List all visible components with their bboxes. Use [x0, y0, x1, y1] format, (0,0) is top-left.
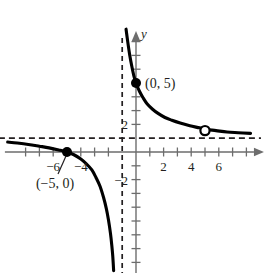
- curve-left-branch: [8, 142, 114, 271]
- x-axis-arrowhead: [254, 148, 264, 156]
- x-tick-label: 2: [160, 159, 167, 174]
- axis-lines-group: [5, 31, 264, 273]
- coordinate-plane: −6−42462−2 x y (0, 5) (−5, 0): [0, 0, 267, 273]
- x-intercept-label: (−5, 0): [36, 176, 75, 192]
- x-tick-label: −4: [74, 159, 88, 174]
- y-tick-label: 2: [122, 117, 129, 132]
- point-y-intercept: [131, 78, 141, 88]
- x-tick-label: 6: [216, 159, 223, 174]
- point-removable-hole: [200, 126, 209, 135]
- y-axis-arrowhead: [132, 31, 140, 41]
- graph-figure: · · · −6−42462−2 x: [0, 0, 267, 273]
- x-tick-label: −6: [46, 159, 60, 174]
- point-x-intercept: [62, 147, 72, 157]
- curve-group: [8, 29, 251, 271]
- y-axis-label: y: [139, 26, 147, 41]
- y-tick-label: −2: [114, 173, 128, 188]
- y-intercept-label: (0, 5): [145, 76, 176, 92]
- x-tick-label: 4: [188, 159, 195, 174]
